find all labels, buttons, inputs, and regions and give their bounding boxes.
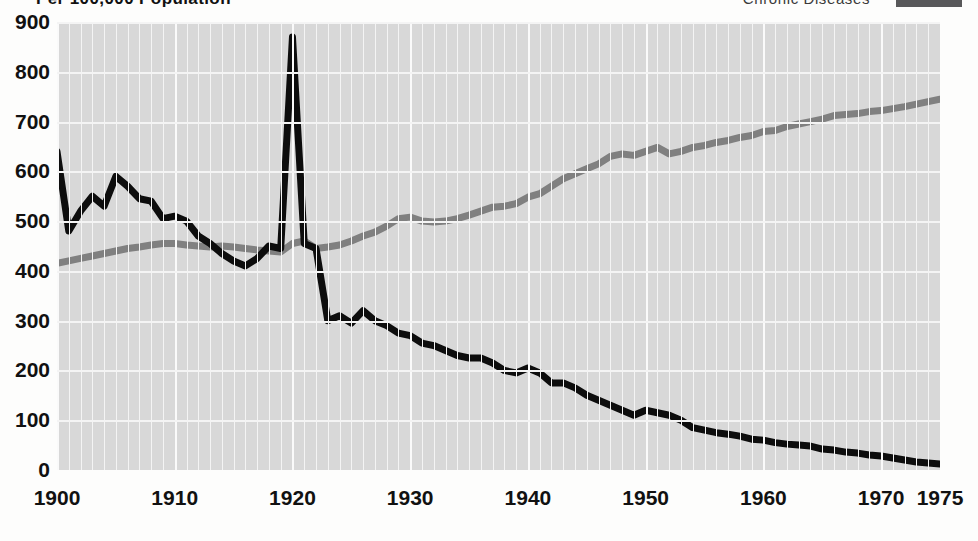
gridline-vertical: [657, 22, 658, 470]
gridline-vertical: [504, 22, 505, 470]
gridline-vertical: [151, 22, 152, 470]
x-axis-tick-label: 1910: [151, 486, 198, 510]
gridline-vertical: [234, 22, 235, 470]
gridline-vertical: [575, 22, 576, 470]
gridline-vertical: [340, 22, 341, 470]
gridline-vertical: [481, 22, 482, 470]
gridline-vertical: [187, 22, 188, 470]
gridline-horizontal: [57, 420, 940, 422]
gridline-vertical: [787, 22, 788, 470]
x-axis-tick-label: 1940: [505, 486, 552, 510]
gridline-horizontal: [57, 221, 940, 223]
y-axis-tick-label: 0: [2, 458, 50, 482]
y-axis-tick-label: 500: [2, 209, 50, 233]
gridline-vertical: [881, 22, 883, 470]
gridline-vertical: [834, 22, 835, 470]
gridline-horizontal: [57, 321, 940, 323]
gridline-vertical: [728, 22, 729, 470]
gridline-vertical: [316, 22, 317, 470]
gridline-vertical: [716, 22, 717, 470]
gridline-vertical: [858, 22, 859, 470]
gridline-vertical: [69, 22, 70, 470]
gridline-vertical: [328, 22, 329, 470]
gridline-vertical: [587, 22, 588, 470]
gridline-vertical: [693, 22, 694, 470]
gridline-vertical: [398, 22, 399, 470]
y-axis-tick-label: 100: [2, 408, 50, 432]
gridline-vertical: [375, 22, 376, 470]
gridline-vertical: [916, 22, 917, 470]
x-axis-tick-label: 1970: [858, 486, 905, 510]
y-axis-tick-label: 800: [2, 60, 50, 84]
x-axis: 190019101920193019401950196019701975: [57, 486, 940, 520]
gridline-vertical: [551, 22, 552, 470]
gridline-vertical: [410, 22, 412, 470]
gridline-vertical: [304, 22, 305, 470]
gridline-vertical: [422, 22, 423, 470]
gridline-vertical: [128, 22, 129, 470]
gridline-vertical: [434, 22, 435, 470]
legend: Chronic Diseases: [743, 0, 962, 7]
gridline-vertical: [540, 22, 541, 470]
gridline-vertical: [292, 22, 294, 470]
gridline-vertical: [775, 22, 776, 470]
y-axis-tick-label: 300: [2, 309, 50, 333]
gridline-vertical: [705, 22, 706, 470]
gridline-vertical: [104, 22, 105, 470]
gridline-vertical: [740, 22, 741, 470]
gridline-vertical: [387, 22, 388, 470]
gridline-vertical: [869, 22, 870, 470]
gridline-vertical: [846, 22, 847, 470]
legend-item-chronic-diseases-label: Chronic Diseases: [743, 0, 870, 7]
line-chronic-diseases: [57, 99, 940, 263]
chart-page: Per 100,000 Population Chronic Diseases …: [0, 0, 978, 541]
gridline-vertical: [245, 22, 246, 470]
gridline-vertical: [822, 22, 823, 470]
gridline-vertical: [222, 22, 223, 470]
gridline-vertical: [57, 22, 59, 470]
line-infectious-diseases: [57, 37, 940, 464]
gridline-horizontal: [57, 22, 940, 24]
y-axis-tick-label: 600: [2, 159, 50, 183]
legend-swatch-chronic-diseases: [896, 0, 962, 7]
gridline-vertical: [493, 22, 494, 470]
gridline-horizontal: [57, 271, 940, 273]
x-axis-tick-label: 1960: [740, 486, 787, 510]
gridline-vertical: [210, 22, 211, 470]
gridline-vertical: [281, 22, 282, 470]
gridline-vertical: [351, 22, 352, 470]
gridline-vertical: [799, 22, 800, 470]
gridline-vertical: [599, 22, 600, 470]
gridline-vertical: [175, 22, 177, 470]
gridline-vertical: [469, 22, 470, 470]
gridline-vertical: [198, 22, 199, 470]
gridline-vertical: [905, 22, 906, 470]
y-axis: 9008007006005004003002001000: [0, 22, 50, 470]
gridline-horizontal: [57, 72, 940, 74]
y-axis-tick-label: 400: [2, 259, 50, 283]
x-axis-tick-label: 1900: [34, 486, 81, 510]
gridline-vertical: [139, 22, 140, 470]
gridline-vertical: [610, 22, 611, 470]
gridline-vertical: [893, 22, 894, 470]
series-group: [57, 22, 940, 470]
gridline-vertical: [563, 22, 564, 470]
y-axis-tick-label: 200: [2, 358, 50, 382]
gridline-vertical: [646, 22, 648, 470]
gridline-vertical: [81, 22, 82, 470]
plot-area: [57, 22, 940, 470]
gridline-vertical: [516, 22, 517, 470]
gridline-vertical: [752, 22, 753, 470]
x-axis-tick-label: 1930: [387, 486, 434, 510]
gridline-vertical: [634, 22, 635, 470]
page-title: Per 100,000 Population: [36, 0, 231, 9]
x-axis-tick-label: 1950: [622, 486, 669, 510]
y-axis-tick-label: 900: [2, 10, 50, 34]
gridline-vertical: [622, 22, 623, 470]
y-axis-tick-label: 700: [2, 110, 50, 134]
gridline-horizontal: [57, 370, 940, 372]
x-axis-tick-label: 1920: [269, 486, 316, 510]
gridline-horizontal: [57, 122, 940, 124]
gridline-vertical: [763, 22, 765, 470]
gridline-vertical: [810, 22, 811, 470]
